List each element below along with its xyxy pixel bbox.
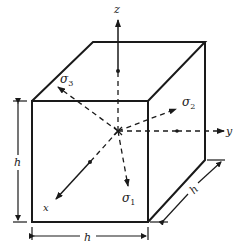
x-axis-dot xyxy=(88,160,92,164)
width-label: h xyxy=(84,231,91,244)
sigma1-label: σ1 xyxy=(122,191,135,207)
y-axis-label: y xyxy=(225,125,233,138)
z-axis-dot xyxy=(116,69,120,73)
x-axis xyxy=(56,131,118,199)
depth-label: h xyxy=(187,183,201,197)
z-axis xyxy=(116,20,120,131)
sigma3-arrow xyxy=(58,87,118,131)
y-axis xyxy=(118,129,224,133)
z-axis-label: z xyxy=(113,3,120,16)
height-label: h xyxy=(14,156,21,169)
x-axis-label: x xyxy=(43,202,49,213)
stress-cube-diagram: z y x σ3 σ2 σ1 h h xyxy=(0,0,245,250)
y-axis-dot xyxy=(175,129,179,133)
sigma1-arrow xyxy=(118,131,128,186)
sigma2-label: σ2 xyxy=(182,95,195,111)
sigma3-label: σ3 xyxy=(60,72,73,88)
depth-dimension xyxy=(150,160,225,222)
